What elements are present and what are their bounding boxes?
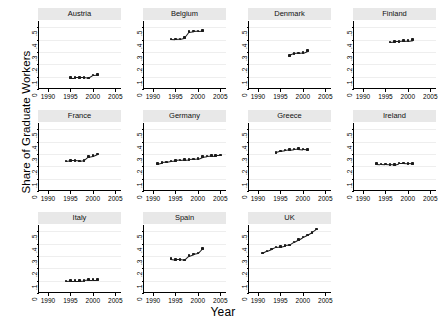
data-point xyxy=(78,160,81,163)
panel-finland: Finland0.1.2.3.4.51990199520002005 xyxy=(341,8,436,108)
x-axis-tick-label: 2005 xyxy=(315,297,335,304)
data-point xyxy=(297,147,300,150)
y-axis-tick-label: .5 xyxy=(137,27,144,39)
data-point xyxy=(288,148,291,151)
data-point xyxy=(411,38,414,41)
gridline xyxy=(144,52,226,53)
data-point xyxy=(69,279,72,282)
data-point xyxy=(219,154,222,157)
data-point xyxy=(96,278,99,281)
x-axis-tick xyxy=(280,191,281,194)
data-point xyxy=(261,252,264,255)
data-point xyxy=(297,238,300,241)
panel-germany: Germany0.1.2.3.4.51990199520002005 xyxy=(131,110,226,210)
small-multiples-chart: Share of Graduate Workers Year Austria0.… xyxy=(0,0,446,327)
x-axis-tick-label: 1990 xyxy=(38,297,58,304)
gridline xyxy=(249,129,331,130)
x-axis-tick xyxy=(408,191,409,194)
y-axis-tick-label: .2 xyxy=(32,167,39,179)
gridline xyxy=(144,231,226,232)
y-axis-tick-label: .5 xyxy=(347,129,354,141)
x-axis-tick xyxy=(303,293,304,296)
data-point xyxy=(192,253,195,256)
y-axis-tick-label: .5 xyxy=(32,27,39,39)
x-axis-tick-label: 1990 xyxy=(248,297,268,304)
gridline xyxy=(144,281,226,282)
data-point xyxy=(306,49,309,52)
gridline xyxy=(354,142,436,143)
data-point xyxy=(402,39,405,42)
x-axis-tick-label: 2005 xyxy=(315,195,335,202)
x-axis-tick-label: 1995 xyxy=(375,195,395,202)
data-point xyxy=(266,250,269,253)
panel-greece: Greece0.1.2.3.4.51990199520002005 xyxy=(236,110,331,210)
data-point xyxy=(201,247,204,250)
x-axis-tick-label: 2000 xyxy=(188,297,208,304)
data-point xyxy=(279,150,282,153)
y-axis-tick-label: .4 xyxy=(137,142,144,154)
y-axis-tick-label: .2 xyxy=(242,65,249,77)
x-axis-tick-label: 2000 xyxy=(293,297,313,304)
x-axis-tick xyxy=(115,191,116,194)
data-point xyxy=(284,244,287,247)
data-point xyxy=(201,155,204,158)
y-axis-tick-label: .1 xyxy=(242,281,249,293)
data-point xyxy=(87,278,90,281)
y-axis-tick-label: .2 xyxy=(242,167,249,179)
x-axis-tick xyxy=(303,191,304,194)
x-axis-tick-label: 1990 xyxy=(38,93,58,100)
y-axis-tick-label: .1 xyxy=(32,179,39,191)
x-axis-tick xyxy=(430,191,431,194)
data-point xyxy=(293,148,296,151)
panel-title: France xyxy=(38,110,121,122)
gridline xyxy=(39,142,121,143)
y-axis-tick-label: .2 xyxy=(347,65,354,77)
gridline xyxy=(249,179,331,180)
data-point xyxy=(306,148,309,151)
x-axis-tick xyxy=(258,293,259,296)
data-point xyxy=(214,154,217,157)
data-point xyxy=(402,162,405,165)
y-axis-tick-label: .5 xyxy=(242,129,249,141)
y-axis-tick-label: .3 xyxy=(137,154,144,166)
gridline xyxy=(144,40,226,41)
plot-area: 0.1.2.3.4.51990199520002005 xyxy=(143,123,226,191)
panel-title: Spain xyxy=(143,212,226,224)
gridline xyxy=(249,52,331,53)
x-axis-tick xyxy=(363,191,364,194)
data-point xyxy=(161,161,164,164)
panel-title: Austria xyxy=(38,8,121,20)
data-point xyxy=(201,29,204,32)
data-point xyxy=(183,36,186,39)
x-axis-tick xyxy=(175,191,176,194)
y-axis-tick-label: .2 xyxy=(347,167,354,179)
gridline xyxy=(39,231,121,232)
panel-title: UK xyxy=(248,212,331,224)
y-axis-tick-label: .3 xyxy=(32,154,39,166)
x-axis-tick-label: 2000 xyxy=(293,195,313,202)
data-point xyxy=(174,258,177,261)
y-axis-tick-label: .2 xyxy=(32,65,39,77)
x-axis-tick xyxy=(48,293,49,296)
panel-title: Finland xyxy=(353,8,436,20)
plot-area: 0.1.2.3.4.51990199520002005 xyxy=(38,21,121,89)
y-axis-tick-label: .4 xyxy=(32,244,39,256)
x-axis-tick xyxy=(385,89,386,92)
gridline xyxy=(249,77,331,78)
gridline xyxy=(354,27,436,28)
x-axis-tick xyxy=(93,191,94,194)
data-point xyxy=(96,73,99,76)
data-point xyxy=(315,228,318,231)
x-axis-tick xyxy=(153,293,154,296)
x-axis-tick-label: 1990 xyxy=(248,93,268,100)
data-point xyxy=(92,278,95,281)
data-point xyxy=(389,163,392,166)
x-axis-tick-label: 1995 xyxy=(165,297,185,304)
gridline xyxy=(354,77,436,78)
data-point xyxy=(375,162,378,165)
panel-title: Greece xyxy=(248,110,331,122)
gridline xyxy=(354,129,436,130)
panel-row: Italy0.1.2.3.4.51990199520002005Spain0.1… xyxy=(26,212,446,314)
data-point xyxy=(83,76,86,79)
panel-france: France0.1.2.3.4.51990199520002005 xyxy=(26,110,121,210)
